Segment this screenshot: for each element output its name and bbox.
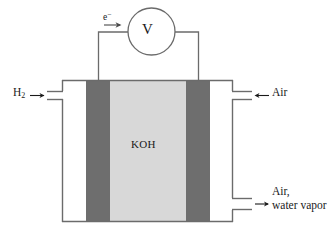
electron-label: e− <box>103 12 111 23</box>
cathode-electrode <box>186 81 210 221</box>
oxidant-inlet-arrow-icon <box>255 93 270 98</box>
fuel-inlet-label: H2 <box>13 86 25 100</box>
oxidant-inlet-label: Air <box>272 86 287 100</box>
anode-circuit-wire <box>99 32 129 80</box>
cathode-gas-chamber <box>210 81 232 221</box>
fuel-inlet-arrow-icon <box>30 93 45 98</box>
exhaust-arrow-icon <box>255 202 269 207</box>
electrolyte-region-koh <box>110 81 186 221</box>
anode-gas-chamber <box>63 81 86 221</box>
fuel-inlet-label-subscript: 2 <box>21 91 25 100</box>
exhaust-label-line-2: water vapor <box>272 199 327 213</box>
fuel-cell-diagram: H2 e− V KOH Air Air, water vapor <box>0 0 334 234</box>
anode-electrode <box>86 81 110 221</box>
exhaust-label: Air, water vapor <box>272 185 327 212</box>
voltmeter-label: V <box>142 21 153 39</box>
cathode-circuit-wire <box>175 32 199 80</box>
exhaust-label-line-1: Air, <box>272 185 327 199</box>
electrolyte-label: KOH <box>131 138 156 151</box>
electron-label-charge: − <box>107 10 111 19</box>
